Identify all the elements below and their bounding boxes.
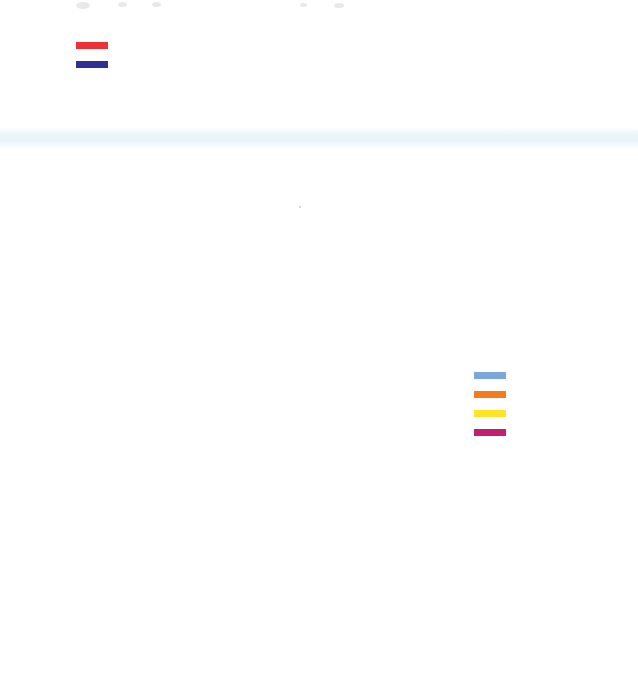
legend-item	[76, 56, 115, 72]
legend-swatch-african-american	[474, 372, 506, 379]
legend-item	[474, 424, 513, 440]
bottom-chart-legend	[474, 367, 513, 443]
legend-swatch-hispanic	[474, 391, 506, 398]
top-chart-legend	[76, 37, 115, 75]
bottom-chart-plot-area	[190, 355, 638, 655]
top-chart	[0, 0, 480, 345]
legend-item	[474, 405, 513, 421]
legend-swatch-non-hispanic-white	[474, 429, 506, 436]
legend-swatch-with-children-under-6	[76, 61, 108, 68]
legend-swatch-with-children-under-18	[76, 42, 108, 49]
legend-item	[76, 37, 115, 53]
legend-swatch-all-races	[474, 410, 506, 417]
top-chart-plot-area	[0, 0, 480, 345]
legend-item	[474, 367, 513, 383]
bottom-chart	[190, 355, 638, 655]
legend-item	[474, 386, 513, 402]
